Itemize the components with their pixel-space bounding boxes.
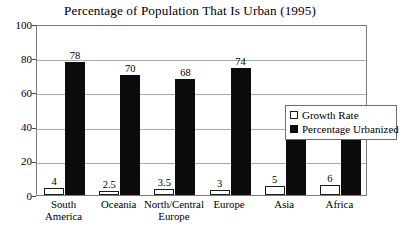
bar-percentage-urbanized — [120, 75, 140, 195]
bar-value-label-growth-rate: 3 — [206, 178, 234, 189]
bar-group: 3.568 — [147, 26, 202, 195]
plot-area: 4782.5703.568374535634 Growth Rate Perce… — [36, 25, 367, 196]
legend-item-percentage-urbanized: Percentage Urbanized — [290, 122, 393, 136]
bar-value-label-percentage-urbanized: 74 — [227, 56, 255, 67]
y-axis-tick-label: 100 — [0, 20, 32, 31]
x-axis-category-label-line: Africa — [300, 199, 379, 211]
y-axis-tick-label: 80 — [0, 54, 32, 65]
y-axis-tick-label: 60 — [0, 88, 32, 99]
bar-value-label-growth-rate: 6 — [316, 173, 344, 184]
bar-value-label-growth-rate: 2.5 — [95, 179, 123, 190]
y-axis-tick-mark — [32, 196, 36, 197]
bar-group: 374 — [203, 26, 258, 195]
bar-growth-rate — [44, 188, 64, 195]
chart-legend: Growth Rate Percentage Urbanized — [285, 105, 397, 140]
bar-growth-rate — [265, 186, 285, 195]
bar-percentage-urbanized — [175, 79, 195, 195]
bar-group: 2.570 — [92, 26, 147, 195]
legend-label-growth-rate: Growth Rate — [302, 109, 359, 121]
bar-value-label-percentage-urbanized: 70 — [116, 63, 144, 74]
open-square-swatch-icon — [290, 111, 298, 119]
legend-label-percentage-urbanized: Percentage Urbanized — [302, 123, 399, 135]
y-axis-tick-label: 40 — [0, 122, 32, 133]
x-axis-category-label: Africa — [300, 199, 379, 211]
bar-percentage-urbanized — [231, 68, 251, 195]
chart-title: Percentage of Population That Is Urban (… — [0, 3, 380, 19]
bar-growth-rate — [210, 190, 230, 195]
bar-percentage-urbanized — [286, 135, 306, 195]
bar-growth-rate — [99, 191, 119, 195]
bar-growth-rate — [154, 189, 174, 195]
bar-value-label-growth-rate: 4 — [40, 176, 68, 187]
bar-group: 478 — [37, 26, 92, 195]
bar-value-label-percentage-urbanized: 68 — [171, 67, 199, 78]
x-axis-category-label-line: Europe — [134, 211, 213, 223]
bar-value-label-percentage-urbanized: 78 — [61, 50, 89, 61]
bar-value-label-growth-rate: 3.5 — [150, 177, 178, 188]
bar-percentage-urbanized — [65, 62, 85, 195]
x-axis-category-label-line: America — [24, 211, 103, 223]
y-axis-tick-label: 20 — [0, 156, 32, 167]
bar-value-label-growth-rate: 5 — [261, 174, 289, 185]
bar-growth-rate — [320, 185, 340, 195]
legend-item-growth-rate: Growth Rate — [290, 108, 393, 122]
x-axis-category-labels: SouthAmericaOceaniaNorth/CentralEuropeEu… — [36, 199, 367, 239]
filled-square-swatch-icon — [290, 125, 298, 133]
bar-percentage-urbanized — [341, 137, 361, 195]
